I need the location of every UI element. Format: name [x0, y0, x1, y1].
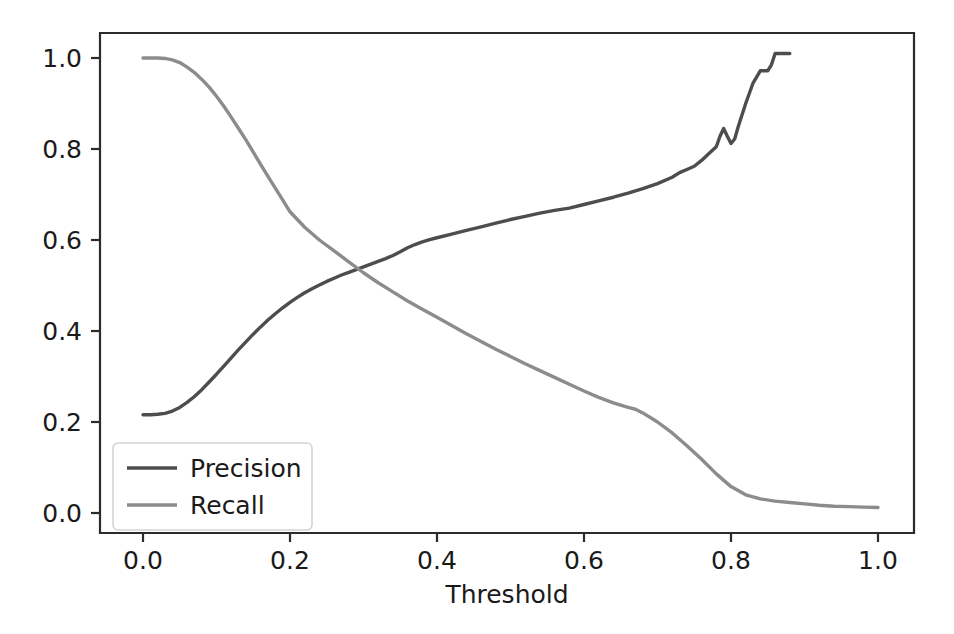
x-tick-label: 0.8	[711, 546, 751, 575]
legend-label-recall: Recall	[190, 491, 265, 520]
y-tick-label: 0.4	[42, 317, 82, 346]
chart-plot: 0.00.20.40.60.81.0 0.00.20.40.60.81.0 Th…	[0, 0, 954, 634]
y-axis-tick-marks	[91, 58, 100, 513]
y-tick-label: 0.2	[42, 408, 82, 437]
x-axis-title: Threshold	[444, 580, 568, 609]
y-tick-label: 0.8	[42, 135, 82, 164]
chart-legend: Precision Recall	[113, 443, 312, 530]
x-axis-tick-marks	[143, 533, 878, 542]
x-tick-label: 1.0	[858, 546, 898, 575]
y-tick-label: 0.6	[42, 226, 82, 255]
legend-label-precision: Precision	[190, 454, 302, 483]
x-tick-label: 0.4	[417, 546, 457, 575]
x-tick-label: 0.6	[564, 546, 604, 575]
y-axis-tick-labels: 0.00.20.40.60.81.0	[42, 44, 82, 528]
y-tick-label: 1.0	[42, 44, 82, 73]
x-tick-label: 0.2	[270, 546, 310, 575]
x-tick-label: 0.0	[123, 546, 163, 575]
figure-canvas: 0.00.20.40.60.81.0 0.00.20.40.60.81.0 Th…	[0, 0, 954, 634]
x-axis-tick-labels: 0.00.20.40.60.81.0	[123, 546, 898, 575]
y-tick-label: 0.0	[42, 499, 82, 528]
